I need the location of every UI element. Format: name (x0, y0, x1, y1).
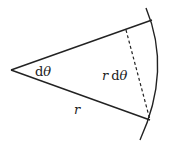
lower-radius-line (11, 70, 150, 120)
radius-label: r (74, 102, 81, 117)
angle-label: dθ (35, 64, 51, 79)
arc-sector-diagram: dθ rdθ r (0, 0, 174, 146)
dashed-chord (126, 30, 150, 120)
upper-radius-line (11, 20, 152, 70)
arc-length-label: rdθ (102, 68, 128, 83)
